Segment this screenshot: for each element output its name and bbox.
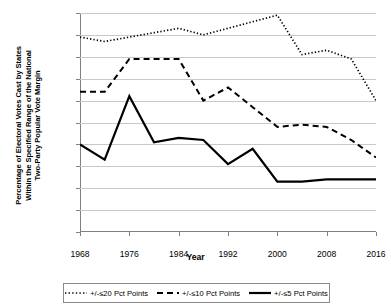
x-tick-mark: [179, 232, 180, 236]
legend-item-10pct: +/-≤10 Pct Points: [157, 289, 240, 298]
x-axis-title: Year: [0, 252, 391, 262]
y-axis-title-line-1: Percentage of Electoral Votes Cast by St…: [14, 7, 24, 243]
legend-label-10pct: +/-≤10 Pct Points: [182, 289, 240, 298]
chart-legend: +/-≤20 Pct Points +/-≤10 Pct Points +/-≤…: [63, 283, 330, 303]
plot-area: 0%10%20%30%40%50%60%70%80%90%100% 196819…: [80, 13, 376, 232]
legend-swatch-dashed: [157, 289, 179, 297]
legend-item-20pct: +/-≤20 Pct Points: [65, 289, 148, 298]
x-tick-mark: [129, 232, 130, 236]
legend-item-5pct: +/-≤5 Pct Points: [249, 289, 328, 298]
y-axis-title-line-2: Within the Specified Range of the Nation…: [23, 7, 33, 243]
series-lines: [80, 13, 376, 232]
x-tick-mark: [228, 232, 229, 236]
legend-label-5pct: +/-≤5 Pct Points: [274, 289, 328, 298]
x-tick-mark: [277, 232, 278, 236]
x-tick-mark: [80, 232, 81, 236]
legend-swatch-dotted: [65, 289, 87, 297]
chart-figure: Percentage of Electoral Votes Cast by St…: [0, 0, 391, 308]
legend-swatch-solid: [249, 289, 271, 297]
x-tick-mark: [327, 232, 328, 236]
series-line-solid: [80, 96, 376, 181]
legend-label-20pct: +/-≤20 Pct Points: [90, 289, 148, 298]
y-axis-title-line-3: Two-Party Popular Vote Margin: [33, 7, 43, 243]
x-tick-mark: [376, 232, 377, 236]
y-axis-title: Percentage of Electoral Votes Cast by St…: [14, 7, 43, 243]
